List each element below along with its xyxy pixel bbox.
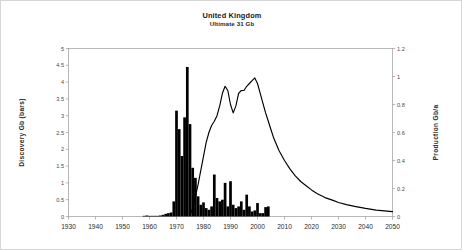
- discovery-bar: [167, 213, 170, 216]
- production-curve: [190, 78, 393, 215]
- discovery-bar: [183, 117, 186, 216]
- discovery-bar: [148, 216, 151, 217]
- discovery-bar: [186, 67, 189, 217]
- x-axis-tick-label: 2030: [331, 223, 346, 230]
- discovery-bar: [210, 206, 213, 216]
- y-axis-left-tick-label: 4.5: [56, 62, 64, 68]
- production-line-series: [190, 78, 393, 215]
- discovery-bar: [232, 205, 235, 217]
- x-axis-tick-label: 1980: [196, 223, 211, 230]
- discovery-bar: [143, 216, 146, 217]
- discovery-bar: [205, 208, 208, 216]
- y-axis-left-tick-label: 5: [61, 46, 64, 52]
- y-axis-right-tick-label: 0: [397, 214, 400, 220]
- discovery-bar: [251, 211, 254, 216]
- x-axis-tick-label: 2010: [277, 223, 292, 230]
- y-axis-left-tick-label: 4: [61, 79, 64, 85]
- discovery-bar: [154, 216, 157, 217]
- y-axis-left-label: Discovery Gb (bars): [18, 98, 26, 166]
- discovery-bar: [151, 216, 154, 217]
- x-axis-tick-label: 1940: [88, 223, 103, 230]
- x-axis-tick-label: 2050: [385, 223, 400, 230]
- y-axis-left-tick-label: 3.5: [56, 96, 64, 102]
- discovery-bar: [224, 183, 227, 217]
- y-axis-left-tick-label: 2: [61, 146, 64, 152]
- y-axis-left-tick-label: 3: [61, 113, 64, 119]
- discovery-bar: [262, 213, 265, 216]
- x-axis-tick-label: 1990: [223, 223, 238, 230]
- y-axis-left-tick-label: 0.5: [56, 197, 64, 203]
- discovery-bar: [197, 196, 200, 216]
- discovery-bar: [218, 201, 221, 216]
- discovery-bar: [156, 216, 159, 217]
- discovery-bar: [240, 201, 243, 216]
- discovery-bar: [175, 111, 178, 217]
- discovery-bar: [170, 212, 173, 216]
- discovery-bar: [256, 203, 259, 216]
- discovery-bar: [216, 198, 219, 216]
- discovery-bar: [164, 214, 167, 217]
- y-axis-left-tick-label: 1.5: [56, 163, 64, 169]
- x-axis-tick-label: 1960: [142, 223, 157, 230]
- y-axis-right-tick-label: 0.8: [397, 102, 405, 108]
- discovery-bar: [221, 200, 224, 217]
- discovery-bar: [202, 202, 205, 216]
- discovery-bar: [253, 210, 256, 216]
- discovery-bar: [145, 215, 148, 216]
- discovery-bar: [213, 175, 216, 217]
- y-axis-left-tick-label: 0: [61, 214, 64, 220]
- x-axis-tick-label: 1950: [115, 223, 130, 230]
- discovery-bar: [259, 213, 262, 216]
- discovery-bar: [181, 156, 184, 216]
- discovery-bar: [189, 124, 192, 216]
- y-axis-right-tick-label: 1: [397, 74, 400, 80]
- discovery-bar: [235, 208, 238, 216]
- y-axis-left-ticks: 00.511.522.533.544.55: [56, 46, 68, 220]
- discovery-bar: [159, 215, 162, 216]
- discovery-bar: [226, 206, 229, 216]
- discovery-bar: [237, 206, 240, 216]
- chart-figure: United Kingdom Ultimate 31 Gb 00.511.522…: [0, 0, 462, 250]
- x-axis-tick-label: 2000: [250, 223, 265, 230]
- discovery-bar: [199, 205, 202, 217]
- y-axis-right-ticks: 00.20.40.60.811.2: [393, 46, 405, 220]
- chart-plot-area: 00.511.522.533.544.55 00.20.40.60.811.2 …: [1, 1, 462, 250]
- discovery-bar: [245, 195, 248, 217]
- y-axis-right-tick-label: 0.2: [397, 186, 405, 192]
- discovery-bar: [243, 210, 246, 217]
- discovery-bar: [264, 207, 267, 216]
- y-axis-right-tick-label: 1.2: [397, 46, 405, 52]
- x-axis-ticks: 1930194019501960197019801990200020102020…: [61, 217, 400, 231]
- y-axis-left-tick-label: 2.5: [56, 130, 64, 136]
- x-axis-tick-label: 2040: [358, 223, 373, 230]
- discovery-bar: [178, 129, 181, 216]
- discovery-bar: [267, 206, 270, 216]
- y-axis-left-tick-label: 1: [61, 180, 64, 186]
- x-axis-tick-label: 2020: [304, 223, 319, 230]
- discovery-bar: [162, 215, 165, 217]
- y-axis-right-tick-label: 0.4: [397, 158, 405, 164]
- discovery-bar: [248, 206, 251, 216]
- y-axis-right-label: Production Gb/a: [432, 105, 439, 161]
- discovery-bar: [208, 210, 211, 217]
- x-axis-tick-label: 1970: [169, 223, 184, 230]
- discovery-bar: [172, 201, 175, 216]
- x-axis-tick-label: 1930: [61, 223, 76, 230]
- y-axis-right-tick-label: 0.6: [397, 130, 405, 136]
- discovery-bar: [229, 181, 232, 216]
